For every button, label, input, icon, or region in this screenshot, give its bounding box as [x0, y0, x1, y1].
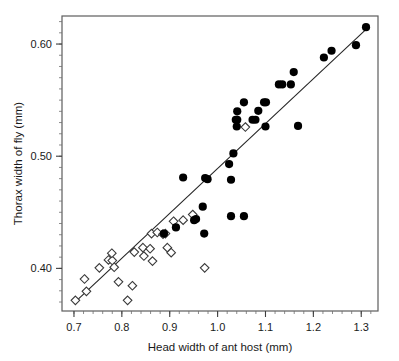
data-point-filled: [254, 107, 262, 115]
x-axis-title: Head width of ant host (mm): [148, 341, 293, 353]
data-point-open: [128, 281, 137, 290]
data-point-open: [179, 216, 188, 225]
x-tick-label: 1.1: [258, 321, 273, 333]
data-point-open: [146, 244, 155, 253]
data-point-filled: [240, 98, 248, 106]
regression-line: [74, 27, 368, 303]
x-tick-label: 0.9: [162, 321, 177, 333]
data-point-filled: [200, 230, 208, 238]
data-point-filled: [261, 122, 269, 130]
data-point-filled: [251, 116, 259, 124]
scatter-plot-figure: 0.70.80.91.01.11.21.30.400.500.60Head wi…: [0, 0, 399, 361]
data-point-filled: [320, 53, 328, 61]
data-point-filled: [233, 122, 241, 130]
x-tick-label: 1.3: [354, 321, 369, 333]
data-point-filled: [278, 80, 286, 88]
data-point-open: [241, 123, 250, 132]
data-point-filled: [192, 215, 200, 223]
data-point-filled: [240, 212, 248, 220]
data-point-filled: [227, 176, 235, 184]
data-point-open: [200, 264, 209, 273]
data-point-filled: [179, 173, 187, 181]
data-point-filled: [294, 122, 302, 130]
y-tick-label: 0.60: [31, 38, 52, 50]
data-point-filled: [290, 68, 298, 76]
data-point-open: [71, 296, 80, 305]
data-point-filled: [229, 149, 237, 157]
x-tick-label: 1.2: [306, 321, 321, 333]
data-point-filled: [233, 107, 241, 115]
data-point-open: [139, 243, 148, 252]
x-tick-label: 0.8: [114, 321, 129, 333]
y-tick-label: 0.40: [31, 262, 52, 274]
data-point-open: [80, 275, 89, 284]
data-point-filled: [201, 174, 209, 182]
data-point-filled: [160, 230, 168, 238]
data-point-open: [140, 252, 149, 261]
data-point-filled: [362, 23, 370, 31]
y-tick-label: 0.50: [31, 150, 52, 162]
data-point-open: [95, 264, 104, 273]
y-axis-title: Thorax width of fly (mm): [12, 102, 24, 225]
x-tick-label: 0.7: [66, 321, 81, 333]
data-point-filled: [327, 47, 335, 55]
data-point-open: [123, 296, 132, 305]
data-point-filled: [352, 41, 360, 49]
data-point-filled: [227, 212, 235, 220]
data-point-open: [148, 257, 157, 266]
x-tick-label: 1.0: [210, 321, 225, 333]
plot-canvas: 0.70.80.91.01.11.21.30.400.500.60Head wi…: [0, 0, 399, 361]
data-point-filled: [199, 203, 207, 211]
data-point-filled: [225, 160, 233, 168]
data-point-open: [114, 278, 123, 287]
plot-frame: [62, 16, 378, 311]
data-point-filled: [262, 98, 270, 106]
data-point-filled: [287, 80, 295, 88]
data-point-filled: [172, 223, 180, 231]
